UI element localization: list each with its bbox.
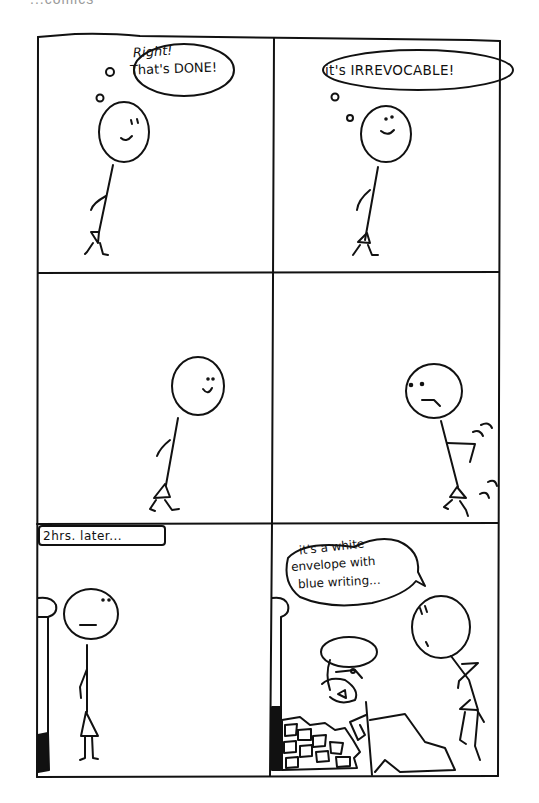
panel-grid: [37, 34, 500, 777]
stick-figure: [412, 596, 484, 760]
panel-3: [150, 357, 224, 511]
thought-dot: [332, 94, 339, 101]
stick-figure: [85, 102, 149, 255]
stick-figure: [353, 106, 411, 255]
comic-strip: [0, 0, 539, 803]
mailbox-edge: [38, 598, 56, 772]
thought-dot: [97, 95, 104, 102]
panel-1-thought-line-1: Right!: [133, 43, 173, 61]
motion-line: [480, 493, 489, 498]
panel-4: [406, 364, 497, 516]
motion-line: [481, 424, 492, 428]
panel-2: [323, 50, 513, 255]
pile-of-letters: [282, 717, 360, 770]
stick-figure: [406, 364, 497, 516]
stick-figure: [64, 589, 118, 760]
motion-line: [488, 481, 497, 486]
stick-figure: [150, 357, 224, 511]
motion-line: [473, 431, 483, 436]
panel-5-caption-text: 2hrs. later...: [43, 529, 122, 543]
thought-dot: [106, 68, 114, 76]
panel-1-thought-line-2: That's DONE!: [130, 59, 218, 77]
thought-dot: [347, 115, 353, 121]
panel-5: [38, 526, 165, 772]
panel-2-thought-text: it's IRREVOCABLE!: [325, 62, 454, 78]
